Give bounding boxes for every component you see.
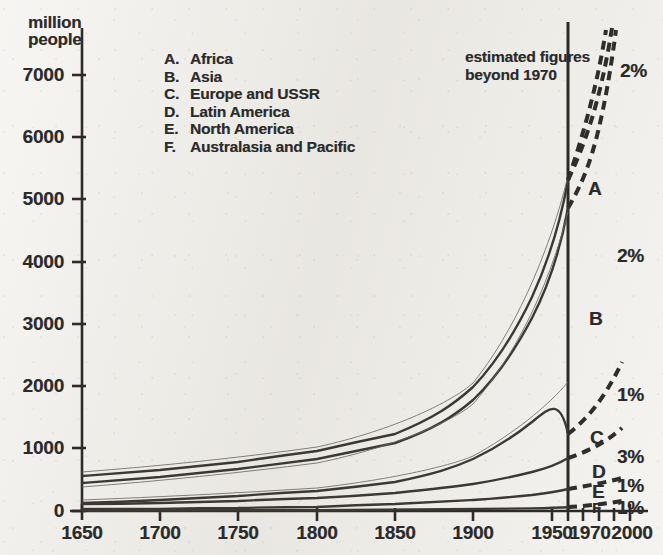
legend-key-a: A. — [164, 50, 190, 68]
y-tick-label-6000: 6000 — [2, 126, 64, 148]
curve-A-africa-top — [82, 180, 568, 476]
legend-key-b: B. — [164, 68, 190, 86]
historic-curve-shadows — [82, 176, 568, 500]
legend-key-d: D. — [164, 103, 190, 121]
legend-item-c: C. Europe and USSR — [164, 85, 355, 103]
x-tick-label-1650: 1650 — [46, 522, 118, 544]
y-tick-label-5000: 5000 — [2, 188, 64, 210]
legend-label-f: Australasia and Pacific — [190, 138, 355, 156]
growth-tag-d: 1% — [617, 475, 644, 497]
population-growth-chart: million people 7000 6000 5000 4000 3000 … — [0, 0, 663, 555]
legend-label-e: North America — [190, 120, 294, 138]
curve-tag-c: C — [590, 427, 604, 449]
x-tick-marks — [82, 504, 630, 521]
curve-tag-d: D — [592, 461, 606, 483]
legend-item-d: D. Latin America — [164, 103, 355, 121]
curve-tag-a: A — [588, 178, 602, 200]
x-tick-label-1850: 1850 — [359, 522, 431, 544]
legend-item-a: A. Africa — [164, 50, 355, 68]
estimate-note-line1: estimated figures — [465, 48, 590, 66]
growth-tag-e: 1% — [617, 497, 644, 519]
legend-key-f: F. — [164, 138, 190, 156]
y-tick-label-7000: 7000 — [2, 64, 64, 86]
legend-label-c: Europe and USSR — [190, 85, 320, 103]
legend-item-b: B. Asia — [164, 68, 355, 86]
y-tick-label-1000: 1000 — [2, 437, 64, 459]
curve-tag-f: F — [592, 499, 601, 516]
curve-C-europe-top — [82, 409, 568, 503]
x-tick-label-2000: 2000 — [596, 522, 663, 544]
legend-item-e: E. North America — [164, 120, 355, 138]
estimate-note-line2: beyond 1970 — [465, 66, 590, 84]
y-axis-unit-line1: million — [28, 14, 82, 31]
x-tick-label-1800: 1800 — [281, 522, 353, 544]
y-tick-label-0: 0 — [2, 500, 64, 522]
curve-tag-b: B — [589, 308, 603, 330]
legend-key-c: C. — [164, 85, 190, 103]
y-tick-label-4000: 4000 — [2, 251, 64, 273]
x-tick-label-1900: 1900 — [437, 522, 509, 544]
estimate-note: estimated figures beyond 1970 — [465, 48, 590, 83]
legend-item-f: F. Australasia and Pacific — [164, 138, 355, 156]
y-tick-label-3000: 3000 — [2, 313, 64, 335]
growth-tag-a: 2% — [617, 245, 644, 267]
growth-tag-c: 3% — [617, 446, 644, 468]
curve-E-north-america-top — [82, 489, 568, 509]
curve-B-asia-top — [82, 208, 568, 483]
growth-tag-b: 1% — [617, 384, 644, 406]
y-tick-label-2000: 2000 — [2, 375, 64, 397]
legend-label-b: Asia — [190, 68, 222, 86]
curve-C-projection — [568, 362, 622, 434]
legend: A. Africa B. Asia C. Europe and USSR D. … — [164, 50, 355, 156]
legend-key-e: E. — [164, 120, 190, 138]
growth-tag-world-top: 2% — [620, 60, 647, 82]
y-tick-marks — [72, 75, 86, 511]
legend-label-d: Latin America — [190, 103, 289, 121]
x-tick-label-1700: 1700 — [124, 522, 196, 544]
x-tick-label-1750: 1750 — [202, 522, 274, 544]
y-axis-unit-label: million people — [28, 14, 82, 48]
legend-label-a: Africa — [190, 50, 233, 68]
y-axis-unit-line2: people — [28, 31, 82, 48]
